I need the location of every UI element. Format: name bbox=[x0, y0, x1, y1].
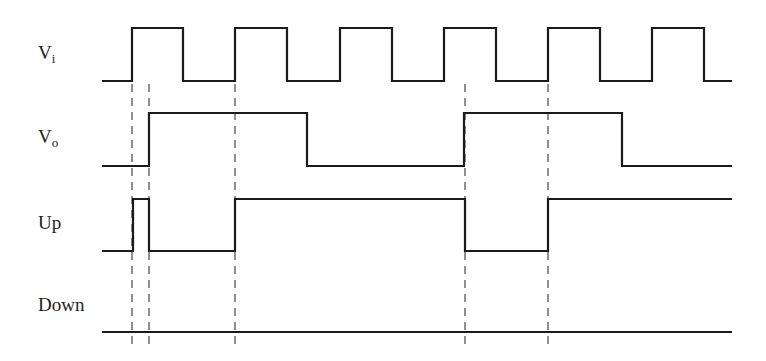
waveform-vo bbox=[102, 113, 732, 166]
waveform-up bbox=[102, 199, 732, 251]
waveform-canvas bbox=[0, 0, 766, 361]
signal-label-vi-sub: i bbox=[52, 51, 56, 66]
signal-label-vi-main: V bbox=[38, 42, 52, 63]
signal-label-vi: Vi bbox=[38, 42, 55, 67]
signal-label-down: Down bbox=[38, 294, 84, 316]
signal-label-up-main: Up bbox=[38, 212, 61, 233]
signal-label-down-main: Down bbox=[38, 294, 84, 315]
signal-label-vo: Vo bbox=[38, 126, 58, 151]
dashed-guide-lines bbox=[132, 84, 548, 350]
signal-label-up: Up bbox=[38, 212, 61, 234]
signal-waveforms bbox=[102, 28, 732, 332]
timing-diagram: Vi Vo Up Down bbox=[0, 0, 766, 361]
signal-label-vo-main: V bbox=[38, 126, 52, 147]
signal-label-vo-sub: o bbox=[52, 135, 59, 150]
waveform-vi bbox=[102, 28, 732, 81]
